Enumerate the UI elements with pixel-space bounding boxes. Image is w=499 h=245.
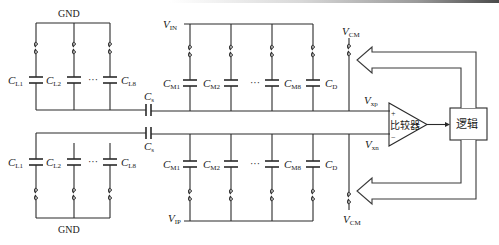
cap-label-cm2-top: CM2 — [203, 77, 221, 91]
cap-label-cm8-top: CM8 — [284, 77, 302, 91]
msb-top-switches — [189, 45, 315, 57]
cs-bottom-label: Cs — [144, 140, 154, 154]
logic-label: 逻辑 — [456, 117, 478, 131]
lsb-bottom-capacitors — [29, 159, 117, 165]
ellipsis-msb-bottom: ··· — [250, 158, 260, 169]
cap-label-cm2-bottom: CM2 — [203, 158, 221, 172]
vcm-bottom-switch — [348, 134, 351, 210]
cap-label-cl8-bottom: CL8 — [121, 156, 137, 170]
gnd-bottom-label: GND — [58, 224, 80, 235]
minus-sign: − — [391, 133, 396, 142]
lsb-top-branches — [36, 23, 110, 110]
cap-label-cm1-bottom: CM1 — [163, 158, 181, 172]
comparator: + − 比较器 — [389, 103, 427, 146]
lsb-top-capacitors — [29, 77, 117, 83]
feedback-arrow-top-icon — [357, 47, 476, 108]
comparator-label: 比较器 — [390, 119, 420, 131]
cap-label-cl8-top: CL8 — [121, 74, 137, 88]
arrow-head-icon — [445, 122, 450, 127]
lsb-bottom-switches — [35, 188, 112, 200]
circuit-diagram: GND CL1 CL2 ··· CL8 Cs — [0, 0, 499, 245]
msb-top-branches — [190, 24, 313, 111]
ellipsis-lsb-bottom: ··· — [88, 156, 98, 167]
cap-label-cl2-top: CL2 — [46, 74, 62, 88]
vxp-label: Vxp — [364, 94, 378, 108]
plus-sign: + — [391, 109, 396, 118]
vip-label: VIP — [168, 212, 181, 226]
cs-top-capacitor — [146, 104, 151, 116]
msb-bottom-switches — [189, 189, 315, 201]
cs-top-label: Cs — [144, 90, 154, 104]
cap-label-cd-top: CD — [325, 77, 337, 91]
vcm-bottom-label: VCM — [343, 213, 361, 227]
cap-label-cl1-bottom: CL1 — [8, 156, 24, 170]
vcm-top-label: VCM — [342, 25, 360, 39]
vxn-label: Vxn — [365, 138, 379, 152]
cap-label-cd-bottom: CD — [325, 158, 337, 172]
vcm-top-switch — [348, 38, 351, 111]
lsb-bottom-branches — [36, 133, 110, 218]
gnd-top-label: GND — [58, 8, 80, 19]
ellipsis-msb-top: ··· — [250, 77, 260, 88]
lsb-top-switches — [35, 42, 112, 54]
cap-label-cm1-top: CM1 — [163, 77, 181, 91]
cap-label-cl2-bottom: CL2 — [46, 156, 62, 170]
cap-label-cm8-bottom: CM8 — [284, 158, 302, 172]
cs-bottom-capacitor — [146, 127, 151, 139]
ellipsis-lsb-top: ··· — [88, 74, 98, 85]
cap-label-cl1-top: CL1 — [8, 74, 24, 88]
vin-label: VIN — [163, 18, 177, 32]
msb-bottom-branches — [190, 134, 313, 221]
